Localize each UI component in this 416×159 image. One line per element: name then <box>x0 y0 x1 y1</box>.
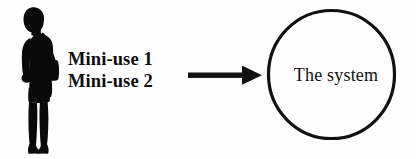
right-arrow-icon <box>186 62 266 90</box>
use-case-label-1: Mini-use 1 <box>68 48 198 70</box>
association-arrow <box>186 62 266 90</box>
system-label: The system <box>264 2 406 148</box>
diagram-canvas: Mini-use 1 Mini-use 2 The system <box>0 0 416 159</box>
use-case-label-2: Mini-use 2 <box>68 70 198 92</box>
use-case-label-group: Mini-use 1 Mini-use 2 <box>68 48 198 92</box>
system-boundary: The system <box>264 2 406 148</box>
